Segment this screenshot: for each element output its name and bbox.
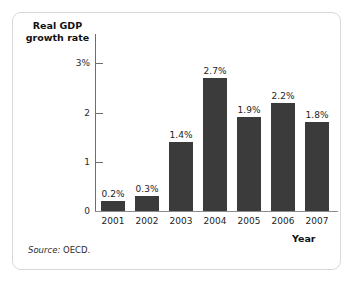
bar-value-2003: 1.4%	[161, 130, 201, 140]
x-axis-title: Year	[292, 233, 316, 244]
bar-value-2007: 1.8%	[297, 110, 337, 120]
bar-value-2002: 0.3%	[127, 184, 167, 194]
chart-figure: Real GDP growth rate 3% 2 1 0 0.2% 0.3%	[0, 0, 353, 284]
bar-2003	[169, 142, 193, 211]
plot-area: Real GDP growth rate 3% 2 1 0 0.2% 0.3%	[0, 0, 353, 284]
bar-2004	[203, 78, 227, 211]
y-tick-mark-1	[96, 162, 103, 163]
source-note: Source: OECD.	[28, 245, 90, 255]
y-tick-label-1: 1	[50, 157, 90, 167]
y-axis-title: Real GDP growth rate	[20, 20, 95, 44]
source-label: Source:	[28, 245, 60, 255]
bar-value-2006: 2.2%	[263, 91, 303, 101]
x-tick-label-2007: 2007	[297, 216, 337, 227]
bar-value-2004: 2.7%	[195, 66, 235, 76]
y-axis-line	[95, 34, 96, 212]
bar-2007	[305, 122, 329, 211]
y-tick-label-2: 2	[50, 108, 90, 118]
y-tick-mark-3	[96, 63, 103, 64]
y-axis-title-line2: growth rate	[20, 32, 95, 44]
y-tick-mark-2	[96, 113, 103, 114]
y-tick-label-3: 3%	[50, 58, 90, 68]
bar-2005	[237, 117, 261, 211]
source-value: OECD.	[63, 245, 90, 255]
y-axis-title-line1: Real GDP	[20, 20, 95, 32]
bar-2001	[101, 201, 125, 211]
bar-2002	[135, 196, 159, 211]
bar-2006	[271, 103, 295, 211]
y-tick-label-0: 0	[50, 206, 90, 216]
bar-value-2005: 1.9%	[229, 105, 269, 115]
x-axis-line	[95, 211, 338, 212]
